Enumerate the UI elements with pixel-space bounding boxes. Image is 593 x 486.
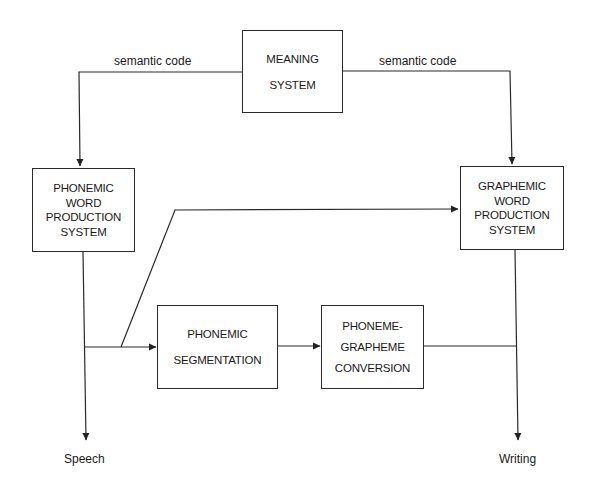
edge-graphemic-to-writing xyxy=(515,250,518,440)
edge-meaning-to-graphemic xyxy=(343,71,512,164)
box-text-line: SYSTEM xyxy=(60,225,106,240)
phonemic-word-production-box: PHONEMIC WORD PRODUCTION SYSTEM xyxy=(32,168,135,252)
box-text-line: GRAPHEMIC xyxy=(478,179,546,194)
box-text-line: GRAPHEME xyxy=(340,337,404,358)
semantic-code-label-left: semantic code xyxy=(114,54,191,68)
phoneme-grapheme-conversion-box: PHONEME- GRAPHEME CONVERSION xyxy=(321,305,424,389)
box-text-line: WORD xyxy=(494,194,530,209)
diagram-canvas: semantic code semantic code MEANING SYST… xyxy=(0,0,593,486)
box-text-line: PRODUCTION xyxy=(474,208,549,223)
box-text-line: SYSTEM xyxy=(269,72,315,98)
box-text-line: SYSTEM xyxy=(489,223,535,238)
meaning-system-box: MEANING SYSTEM xyxy=(242,30,343,113)
speech-output-label: Speech xyxy=(64,452,105,466)
box-text-line: PHONEME- xyxy=(342,316,402,337)
box-text-line: MEANING xyxy=(266,46,318,72)
box-text-line: PRODUCTION xyxy=(46,210,121,225)
phonemic-segmentation-box: PHONEMIC SEGMENTATION xyxy=(157,305,278,389)
box-text-line: CONVERSION xyxy=(335,358,410,379)
writing-output-label: Writing xyxy=(499,452,536,466)
edge-phonemic-to-speech xyxy=(83,252,86,440)
edge-meaning-to-phonemic xyxy=(79,72,242,166)
box-text-line: PHONEMIC xyxy=(187,321,247,347)
box-text-line: PHONEMIC xyxy=(53,181,113,196)
box-text-line: SEGMENTATION xyxy=(174,347,262,373)
graphemic-word-production-box: GRAPHEMIC WORD PRODUCTION SYSTEM xyxy=(460,166,564,250)
semantic-code-label-right: semantic code xyxy=(379,54,456,68)
box-text-line: WORD xyxy=(66,196,102,211)
